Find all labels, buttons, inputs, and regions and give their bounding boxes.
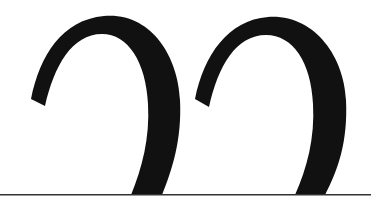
glyph-right: [195, 17, 346, 195]
glyph-left: [31, 16, 180, 195]
glyph-canvas: [0, 0, 371, 206]
glyph-figure: [0, 0, 371, 206]
baseline-rule: [0, 194, 371, 196]
